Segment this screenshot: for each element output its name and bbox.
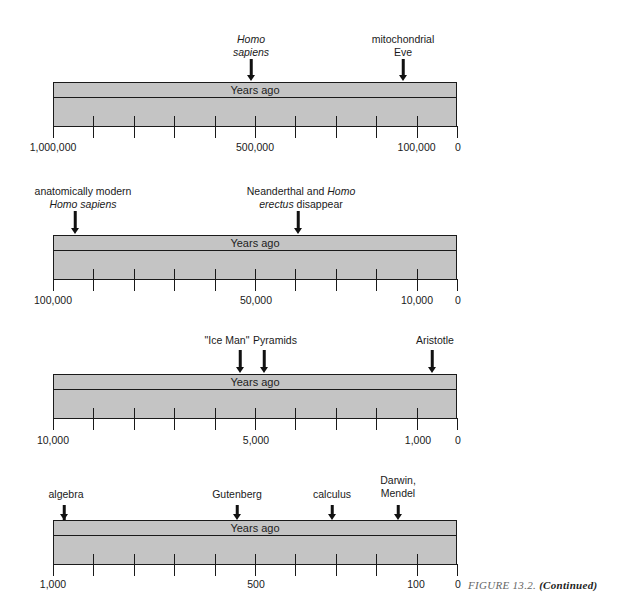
event-label-line: Homo (237, 33, 265, 45)
event-label-line: sapiens (233, 46, 269, 58)
arrow-down-icon (236, 505, 239, 514)
event-label-line: algebra (48, 488, 83, 500)
tick (215, 116, 216, 138)
tick (336, 408, 337, 430)
event-algebra: algebra (48, 488, 83, 501)
bar-divider (54, 250, 456, 251)
arrow-down-icon (239, 350, 242, 367)
event-label-line: anatomically modern (35, 185, 132, 197)
tick-label: 10,000 (37, 434, 69, 446)
bar-title: Years ago (54, 236, 456, 250)
tick (174, 408, 175, 430)
tick (295, 554, 296, 576)
tick-label: 1,000 (405, 434, 431, 446)
event-label-line: mitochondrial (372, 33, 434, 45)
tick (295, 408, 296, 430)
tick (417, 269, 418, 291)
bar-divider (54, 389, 456, 390)
tick (174, 554, 175, 576)
arrow-down-icon (263, 350, 266, 367)
tick (376, 408, 377, 430)
tick (255, 554, 256, 576)
tick-major (53, 279, 54, 291)
tick (417, 408, 418, 430)
tick (174, 269, 175, 291)
event-label-line: Gutenberg (212, 488, 262, 500)
event-aristotle: Aristotle (416, 334, 454, 347)
event-label-line: Darwin, (380, 474, 416, 486)
event-label-line: Homo sapiens (49, 198, 116, 210)
event-pyramids: Pyramids (253, 334, 297, 347)
tick (336, 269, 337, 291)
tick (174, 116, 175, 138)
tick (134, 269, 135, 291)
event-ice-man: "Ice Man" (205, 334, 250, 347)
bar-title: Years ago (54, 83, 456, 97)
tick-label: 1,000 (40, 578, 66, 590)
tick (93, 116, 94, 138)
tick-major (53, 564, 54, 576)
arrow-down-icon (397, 505, 400, 514)
event-homo-sapiens: Homo sapiens (233, 33, 269, 59)
tick (376, 554, 377, 576)
event-neanderthal-disappear: Neanderthal and Homo erectus disappear (247, 185, 356, 211)
tick-label: 10,000 (401, 294, 433, 306)
arrowhead-icon (294, 228, 302, 234)
event-label-line: calculus (313, 488, 351, 500)
tick-label: 500,000 (236, 141, 274, 153)
arrow-down-icon (74, 211, 77, 228)
event-label-part: Neanderthal and (247, 185, 328, 197)
arrowhead-icon (399, 75, 407, 81)
tick (134, 408, 135, 430)
tick-label: 0 (455, 294, 461, 306)
figure-number: FIGURE 13.2. (468, 579, 536, 591)
tick-label: 0 (455, 434, 461, 446)
tick (134, 116, 135, 138)
tick (255, 269, 256, 291)
tick (255, 116, 256, 138)
event-label-part: disappear (294, 198, 343, 210)
tick (93, 269, 94, 291)
event-label-line: Eve (394, 46, 412, 58)
tick (417, 116, 418, 138)
event-label-line: Aristotle (416, 334, 454, 346)
tick-label: 5,000 (243, 434, 269, 446)
event-label-part: erectus (259, 198, 293, 210)
arrow-down-icon (402, 59, 405, 75)
tick-label: 0 (455, 141, 461, 153)
tick (215, 554, 216, 576)
tick-major (53, 418, 54, 430)
arrowhead-icon (260, 367, 268, 373)
tick-major (457, 418, 458, 430)
event-mitochondrial-eve: mitochondrial Eve (372, 33, 434, 59)
tick (255, 408, 256, 430)
bar-title: Years ago (54, 375, 456, 389)
tick (215, 269, 216, 291)
tick (417, 554, 418, 576)
tick (134, 554, 135, 576)
tick-label: 500 (247, 578, 265, 590)
arrowhead-icon (236, 367, 244, 373)
arrow-down-icon (250, 59, 253, 75)
bar-title: Years ago (54, 521, 456, 535)
tick (376, 116, 377, 138)
tick (376, 269, 377, 291)
tick-major (457, 279, 458, 291)
tick (93, 408, 94, 430)
tick-label: 1,000,000 (30, 141, 77, 153)
event-label-line: Mendel (381, 487, 415, 499)
arrow-down-icon (331, 505, 334, 514)
tick-label: 0 (455, 578, 461, 590)
figure-note: (Continued) (539, 579, 597, 591)
tick (336, 554, 337, 576)
event-gutenberg: Gutenberg (212, 488, 262, 501)
event-calculus: calculus (313, 488, 351, 501)
bar-divider (54, 535, 456, 536)
arrowhead-icon (247, 75, 255, 81)
tick-major (457, 564, 458, 576)
bar-divider (54, 97, 456, 98)
tick (93, 554, 94, 576)
event-label-line: Pyramids (253, 334, 297, 346)
arrow-down-icon (431, 350, 434, 367)
tick-label: 50,000 (240, 294, 272, 306)
